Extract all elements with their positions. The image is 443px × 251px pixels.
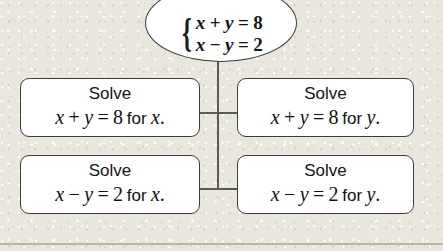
option-title-top-right: Solve bbox=[304, 83, 347, 105]
bl-equals: = bbox=[97, 183, 108, 205]
tr-operator: + bbox=[284, 106, 295, 128]
option-box-solve-x-minus-y-for-y[interactable]: Solve x−y=2fory. bbox=[237, 155, 414, 214]
tl-period: . bbox=[160, 106, 165, 128]
bl-rhs: 2 bbox=[113, 183, 123, 205]
br-for-word: for bbox=[342, 186, 362, 205]
tl-solve-for-var: x bbox=[151, 106, 160, 128]
tl-equals: = bbox=[97, 106, 108, 128]
page-bottom-rule bbox=[0, 243, 443, 245]
tl-rhs: 8 bbox=[113, 106, 123, 128]
diagram-canvas: { x+y=8 x−y=2 Solve x+y=8forx. Solve x+y… bbox=[0, 0, 443, 251]
system-eq1-equals: = bbox=[238, 12, 249, 33]
system-content: { x+y=8 x−y=2 bbox=[146, 12, 296, 56]
option-title-top-left: Solve bbox=[89, 83, 132, 105]
connector-vertical-trunk bbox=[217, 56, 219, 190]
system-eq2-rhs: 2 bbox=[253, 34, 263, 55]
br-operator: − bbox=[284, 183, 295, 205]
system-eq2-var1: x bbox=[196, 34, 206, 55]
system-of-equations-node: { x+y=8 x−y=2 bbox=[145, 0, 297, 62]
tr-period: . bbox=[375, 106, 380, 128]
tl-for-word: for bbox=[127, 109, 147, 128]
system-equation-1: x+y=8 bbox=[196, 12, 263, 34]
tr-var2: y bbox=[300, 106, 309, 128]
tr-var1: x bbox=[271, 106, 280, 128]
tl-var2: y bbox=[84, 106, 93, 128]
system-eq1-operator: + bbox=[210, 12, 221, 33]
system-eq2-operator: − bbox=[210, 34, 221, 55]
system-eq2-equals: = bbox=[238, 34, 249, 55]
bl-var2: y bbox=[84, 183, 93, 205]
tl-var1: x bbox=[55, 106, 64, 128]
bl-operator: − bbox=[68, 183, 79, 205]
bl-period: . bbox=[160, 183, 165, 205]
option-equation-top-right: x+y=8fory. bbox=[271, 105, 381, 131]
br-equals: = bbox=[313, 183, 324, 205]
bl-var1: x bbox=[55, 183, 64, 205]
tr-for-word: for bbox=[342, 109, 362, 128]
option-box-solve-x-plus-y-for-x[interactable]: Solve x+y=8forx. bbox=[20, 78, 200, 137]
system-eq1-var2: y bbox=[225, 12, 234, 33]
tr-rhs: 8 bbox=[329, 106, 339, 128]
system-equation-stack: x+y=8 x−y=2 bbox=[196, 12, 263, 56]
option-equation-top-left: x+y=8forx. bbox=[55, 105, 165, 131]
system-eq1-var1: x bbox=[196, 12, 206, 33]
option-equation-bottom-left: x−y=2forx. bbox=[55, 182, 165, 208]
option-title-bottom-left: Solve bbox=[89, 160, 132, 182]
br-period: . bbox=[375, 183, 380, 205]
system-eq2-var2: y bbox=[225, 34, 234, 55]
br-solve-for-var: y bbox=[366, 183, 375, 205]
option-box-solve-x-plus-y-for-y[interactable]: Solve x+y=8fory. bbox=[237, 78, 414, 137]
option-box-solve-x-minus-y-for-x[interactable]: Solve x−y=2forx. bbox=[20, 155, 200, 214]
option-title-bottom-right: Solve bbox=[304, 160, 347, 182]
tl-operator: + bbox=[68, 106, 79, 128]
br-var2: y bbox=[300, 183, 309, 205]
bl-for-word: for bbox=[127, 186, 147, 205]
br-var1: x bbox=[271, 183, 280, 205]
system-equation-2: x−y=2 bbox=[196, 34, 263, 56]
br-rhs: 2 bbox=[329, 183, 339, 205]
brace-symbol: { bbox=[182, 13, 192, 53]
tr-equals: = bbox=[313, 106, 324, 128]
bl-solve-for-var: x bbox=[151, 183, 160, 205]
system-eq1-rhs: 8 bbox=[253, 12, 263, 33]
tr-solve-for-var: y bbox=[366, 106, 375, 128]
option-equation-bottom-right: x−y=2fory. bbox=[271, 182, 381, 208]
